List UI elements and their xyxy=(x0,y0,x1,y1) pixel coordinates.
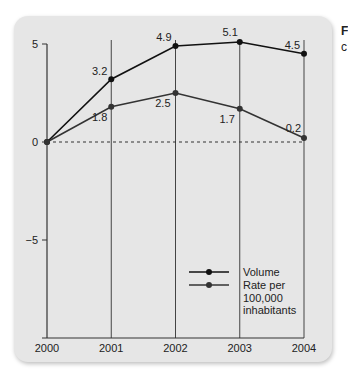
y-tick-label: 5 xyxy=(32,38,38,50)
data-point xyxy=(237,106,243,112)
legend-label: inhabitants xyxy=(243,304,297,316)
x-tick-label: 2003 xyxy=(228,342,252,354)
data-label: 2.5 xyxy=(155,97,170,109)
data-point xyxy=(173,43,179,49)
data-label: 3.2 xyxy=(92,65,107,77)
data-point xyxy=(301,135,307,141)
legend-label: 100,000 xyxy=(243,292,283,304)
data-point xyxy=(108,104,114,110)
labels-group: 3.24.95.14.51.82.51.70.2 xyxy=(92,26,301,134)
x-tick-label: 2000 xyxy=(35,342,59,354)
x-tick-label: 2004 xyxy=(292,342,316,354)
data-point xyxy=(301,51,307,57)
data-label: 4.5 xyxy=(285,39,300,51)
legend-marker-1 xyxy=(206,282,212,288)
y-tick-label: −5 xyxy=(25,234,38,246)
y-tick-label: 0 xyxy=(32,136,38,148)
legend: VolumeRate per100,000inhabitants xyxy=(189,266,297,316)
legend-label: Volume xyxy=(243,266,280,278)
data-label: 0.2 xyxy=(286,122,301,134)
legend-label: Rate per xyxy=(243,279,286,291)
data-label: 1.7 xyxy=(219,113,234,125)
data-point xyxy=(108,76,114,82)
data-label: 5.1 xyxy=(222,26,237,38)
data-point xyxy=(44,139,50,145)
x-tick-label: 2001 xyxy=(99,342,123,354)
data-point xyxy=(173,90,179,96)
x-tick-label: 2002 xyxy=(163,342,187,354)
data-label: 1.8 xyxy=(92,111,107,123)
data-label: 4.9 xyxy=(156,31,171,43)
legend-marker-0 xyxy=(206,269,212,275)
data-point xyxy=(237,39,243,45)
